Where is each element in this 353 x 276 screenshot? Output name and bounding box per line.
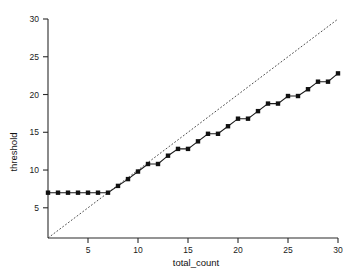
data-point-marker (206, 132, 210, 136)
data-point-marker (76, 190, 80, 194)
x-tick-label: 5 (86, 245, 91, 255)
data-point-marker (316, 79, 320, 83)
data-point-marker (46, 190, 50, 194)
x-axis-title: total_count (173, 257, 220, 268)
x-tick-label: 10 (133, 245, 143, 255)
y-tick-label: 20 (30, 90, 40, 100)
data-point-marker (306, 87, 310, 91)
y-tick-label: 15 (30, 127, 40, 137)
data-point-marker (116, 184, 120, 188)
data-point-marker (136, 169, 140, 173)
data-point-marker (66, 190, 70, 194)
data-point-marker (216, 132, 220, 136)
data-point-marker (336, 71, 340, 75)
x-tick-label: 15 (183, 245, 193, 255)
data-point-marker (326, 79, 330, 83)
y-tick-label: 5 (34, 203, 39, 213)
data-point-marker (246, 116, 250, 120)
data-point-marker (176, 147, 180, 151)
data-point-marker (226, 124, 230, 128)
y-tick-label: 10 (30, 165, 40, 175)
y-tick-label: 30 (30, 14, 40, 24)
data-point-marker (256, 109, 260, 113)
data-point-marker (276, 101, 280, 105)
data-point-marker (186, 147, 190, 151)
data-point-marker (236, 116, 240, 120)
data-point-marker (56, 190, 60, 194)
data-point-marker (96, 190, 100, 194)
x-tick-label: 20 (233, 245, 243, 255)
data-point-marker (266, 101, 270, 105)
data-point-marker (106, 190, 110, 194)
y-axis-title: threshold (8, 132, 19, 171)
data-point-marker (296, 94, 300, 98)
data-point-marker (156, 162, 160, 166)
data-point-marker (146, 162, 150, 166)
chart-container: threshold total_count 51015202530 510152… (0, 0, 353, 276)
y-tick-label: 25 (30, 52, 40, 62)
threshold-vs-total-count-chart: threshold total_count 51015202530 510152… (0, 0, 353, 276)
data-point-marker (86, 190, 90, 194)
data-point-marker (126, 177, 130, 181)
data-point-marker (196, 139, 200, 143)
chart-background (0, 0, 353, 276)
data-point-marker (286, 94, 290, 98)
x-tick-label: 30 (333, 245, 343, 255)
data-point-marker (166, 153, 170, 157)
x-tick-label: 25 (283, 245, 293, 255)
